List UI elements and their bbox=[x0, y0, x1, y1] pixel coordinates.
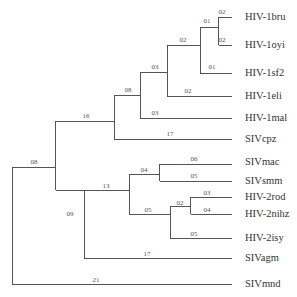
branch-length: 17 bbox=[167, 130, 174, 138]
branch-length: 08 bbox=[31, 158, 38, 166]
branch-hiv1eli bbox=[168, 45, 233, 96]
leaf-label: SIVmnd bbox=[245, 278, 281, 290]
branch-length: 16 bbox=[83, 112, 90, 120]
leaf-label: HIV-1sf2 bbox=[245, 67, 284, 79]
leaf-label: SIVmac bbox=[245, 156, 279, 168]
branch-length: 02 bbox=[185, 87, 192, 95]
branch-length: 09 bbox=[67, 210, 74, 218]
branch-length: 02 bbox=[177, 199, 184, 207]
leaf-label: HIV-2rod bbox=[245, 191, 285, 203]
branch-length: 08 bbox=[125, 86, 132, 94]
branch-length: 06 bbox=[191, 155, 198, 163]
branch-length: 03 bbox=[152, 109, 159, 117]
branch-hiv1sf2 bbox=[201, 27, 233, 73]
leaf-label: HIV-1bru bbox=[245, 11, 285, 23]
branch-length: 02 bbox=[219, 36, 226, 44]
branch-hiv2isy bbox=[171, 206, 233, 238]
branch-length: 13 bbox=[103, 182, 110, 190]
branch-length: 02 bbox=[219, 8, 226, 16]
branch-length: 04 bbox=[141, 166, 148, 174]
branch-length: 03 bbox=[152, 63, 159, 71]
leaf-label: HIV-1oyi bbox=[245, 39, 285, 51]
leaf-label: HIV-2nihz bbox=[245, 208, 290, 220]
leaf-label: SIVagm bbox=[245, 252, 279, 264]
branch-length: 04 bbox=[204, 206, 211, 214]
leaf-label: SIVsmm bbox=[245, 175, 282, 187]
branch-sivagm bbox=[85, 190, 233, 258]
branch-length: 05 bbox=[145, 206, 152, 214]
branch-length: 01 bbox=[204, 17, 211, 25]
branch-length: 05 bbox=[191, 230, 198, 238]
leaf-label: HIV-1mal bbox=[245, 112, 287, 124]
branch-length: 17 bbox=[144, 250, 151, 258]
leaf-label: SIVcpz bbox=[245, 133, 277, 145]
branch-length: 01 bbox=[209, 63, 216, 71]
leaf-label: HIV-2isy bbox=[245, 232, 284, 244]
branch-length: 03 bbox=[204, 189, 211, 197]
branch-length: 05 bbox=[191, 172, 198, 180]
phylogenetic-tree: HIV-1bru HIV-1oyi HIV-1sf2 HIV-1eli HIV-… bbox=[0, 0, 297, 297]
branch-length: 02 bbox=[180, 36, 187, 44]
leaf-label: HIV-1eli bbox=[245, 90, 282, 102]
branch-sivmnd bbox=[13, 167, 233, 284]
branch-length: 21 bbox=[93, 276, 100, 284]
